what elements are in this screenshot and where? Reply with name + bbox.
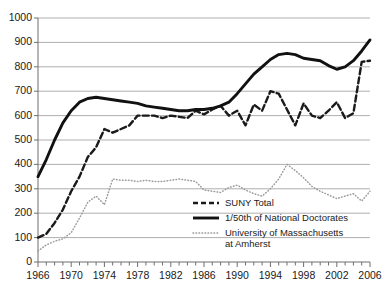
y-axis-label-100: 100	[0, 232, 32, 242]
y-axis-label-600: 600	[0, 110, 32, 120]
y-axis-label-800: 800	[0, 61, 32, 71]
legend-label-2: University of Massachusetts	[225, 227, 343, 238]
legend-label-1: 1/50th of National Doctorates	[225, 212, 348, 223]
legend-label-2-line2: at Amherst	[225, 238, 270, 249]
y-axis-label-1000: 1000	[0, 12, 32, 22]
y-axis-label-200: 200	[0, 207, 32, 217]
legend-label-0: SUNY Total	[225, 197, 274, 208]
y-axis-label-300: 300	[0, 183, 32, 193]
series-line-2	[38, 164, 370, 251]
y-axis-label-500: 500	[0, 134, 32, 144]
y-axis-label-900: 900	[0, 36, 32, 46]
x-axis-label-2006: 2006	[350, 270, 386, 280]
y-axis-label-0: 0	[0, 256, 32, 266]
y-axis-label-400: 400	[0, 158, 32, 168]
y-axis-label-700: 700	[0, 85, 32, 95]
